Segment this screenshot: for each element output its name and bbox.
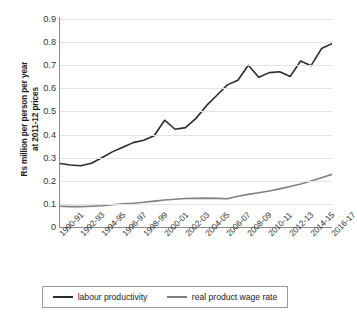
gridline: [60, 181, 332, 182]
gridline: [60, 158, 332, 159]
x-axis-tick-labels: 1990-911992-931994-951996-971998-992000-…: [0, 227, 334, 285]
gridline: [60, 204, 332, 205]
gridline: [60, 65, 332, 66]
y-tick-label: 0.1: [43, 199, 56, 210]
gridline: [60, 42, 332, 43]
series-lines: [60, 19, 332, 227]
y-tick-label: 0.7: [43, 60, 56, 71]
chart-legend: labour productivity real product wage ra…: [42, 286, 288, 308]
gridline: [60, 135, 332, 136]
series-line-labour-productivity: [60, 44, 332, 166]
gridline: [60, 19, 332, 20]
legend-item-real-product-wage-rate[interactable]: real product wage rate: [167, 292, 278, 302]
y-tick-label: 0.3: [43, 153, 56, 164]
gridline: [60, 88, 332, 89]
legend-item-labour-productivity[interactable]: labour productivity: [53, 292, 148, 302]
y-tick-label: 0.2: [43, 176, 56, 187]
legend-swatch-labour-productivity: [53, 296, 73, 298]
y-tick-label: 0.5: [43, 106, 56, 117]
series-line-real-product-wage-rate: [60, 174, 332, 206]
legend-label-real-product-wage-rate: real product wage rate: [192, 292, 278, 302]
y-tick-label: 0.8: [43, 37, 56, 48]
plot-area: [60, 19, 332, 227]
legend-label-labour-productivity: labour productivity: [78, 292, 148, 302]
y-tick-label: 0.6: [43, 83, 56, 94]
y-tick-label: 0.4: [43, 130, 56, 141]
y-axis-tick-labels: 0.90.80.70.60.50.40.30.20.10: [26, 12, 56, 234]
gridline: [60, 111, 332, 112]
y-tick-label: 0.9: [43, 14, 56, 25]
legend-swatch-real-product-wage-rate: [167, 296, 187, 298]
y-axis-line: [59, 17, 60, 228]
